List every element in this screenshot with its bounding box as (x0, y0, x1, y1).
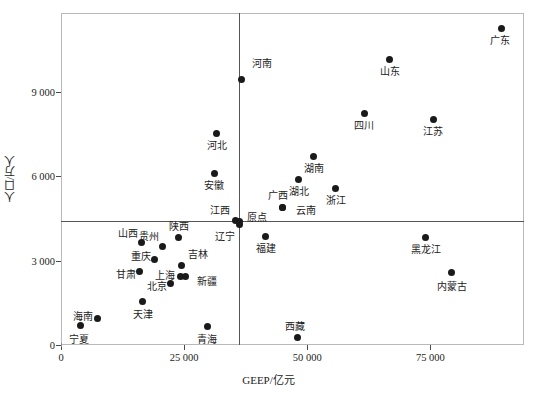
data-point (204, 323, 211, 330)
y-axis-title: 人口/万人 (2, 155, 18, 202)
data-point-label: 辽宁 (215, 231, 235, 242)
data-point (279, 204, 286, 211)
data-point-label: 河北 (207, 140, 227, 151)
scatter-plot-figure: 人口/万人 025 00050 00075 00003 0006 0009 00… (0, 0, 537, 397)
data-point-label: 吉林 (188, 249, 208, 260)
data-point-label: 陕西 (169, 221, 189, 232)
data-point (211, 170, 218, 177)
data-point-label: 北京 (147, 281, 167, 292)
data-point (310, 153, 317, 160)
data-point-label: 江西 (210, 205, 230, 216)
data-point-label: 新疆 (197, 276, 217, 287)
x-axis-tick (184, 345, 185, 350)
data-point (139, 298, 146, 305)
data-point (167, 280, 174, 287)
x-axis-tick (430, 345, 431, 350)
data-point-label: 山西 (118, 228, 138, 239)
data-point-label: 安徽 (204, 180, 224, 191)
x-axis-tick-label: 75 000 (416, 352, 445, 363)
data-point-label: 河南 (252, 58, 272, 69)
x-axis-tick-label: 0 (58, 352, 63, 363)
data-point (332, 185, 339, 192)
data-point (178, 262, 185, 269)
data-point-label: 福建 (256, 243, 276, 254)
y-axis-tick-label: 0 (50, 340, 55, 351)
data-point-label: 原点 (247, 212, 267, 223)
data-point-label: 江苏 (423, 126, 443, 137)
data-point-label: 四川 (354, 120, 374, 131)
data-point-label: 贵州 (139, 231, 159, 242)
y-axis-tick-label: 9 000 (31, 86, 55, 97)
data-point-label: 青海 (197, 334, 217, 345)
data-point (94, 315, 101, 322)
data-point (136, 268, 143, 275)
data-point-label: 宁夏 (69, 334, 89, 345)
data-point (448, 269, 455, 276)
data-point (422, 234, 429, 241)
data-point-label: 云南 (296, 205, 316, 216)
data-point (159, 243, 166, 250)
data-point (361, 110, 368, 117)
x-axis-title: GEEP/亿元 (0, 371, 537, 387)
data-point-label: 湖南 (304, 163, 324, 174)
data-point-label: 广东 (490, 35, 510, 46)
data-point (213, 130, 220, 137)
data-point (77, 322, 84, 329)
data-point-label: 西藏 (285, 321, 305, 332)
y-axis-tick-label: 6 000 (31, 171, 55, 182)
data-point (238, 76, 245, 83)
data-point (295, 176, 302, 183)
data-point-label: 重庆 (131, 251, 151, 262)
data-point-label: 天津 (133, 309, 153, 320)
reference-line-horizontal (61, 221, 524, 222)
data-point (236, 221, 243, 228)
data-point-label: 内蒙古 (437, 281, 467, 292)
data-point (175, 234, 182, 241)
data-point-label: 黑龙江 (411, 244, 441, 255)
data-point-label: 山东 (380, 66, 400, 77)
data-point-label: 广西 (268, 190, 288, 201)
data-point-label: 海南 (73, 311, 93, 322)
data-point (498, 25, 505, 32)
data-point (386, 56, 393, 63)
x-axis-tick-label: 50 000 (293, 352, 322, 363)
data-point (151, 256, 158, 263)
data-point-label: 甘肃 (116, 269, 136, 280)
x-axis-tick-label: 25 000 (170, 352, 199, 363)
data-point-label: 湖北 (289, 186, 309, 197)
y-axis-tick-label: 3 000 (31, 255, 55, 266)
data-point (430, 116, 437, 123)
x-axis-tick (307, 345, 308, 350)
data-point-label: 浙江 (326, 195, 346, 206)
plot-area: 广东山东河南四川江苏河北湖南安徽湖北浙江广西云南江西原点辽宁陕西黑龙江福建山西贵… (61, 13, 524, 345)
reference-line-vertical (239, 13, 240, 345)
data-point (294, 334, 301, 341)
data-point (262, 233, 269, 240)
